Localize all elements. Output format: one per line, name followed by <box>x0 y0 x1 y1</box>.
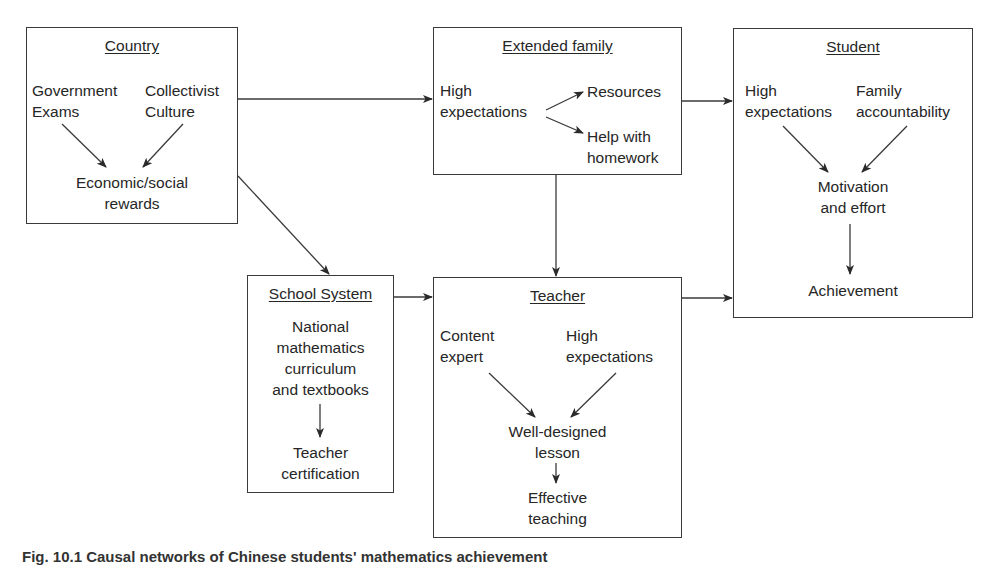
well-designed-lesson-label: Well-designed lesson <box>433 421 682 463</box>
government-exams-label: Government Exams <box>32 80 117 122</box>
content-expert-label: Content expert <box>440 325 494 367</box>
help-with-homework-label: Help with homework <box>587 126 659 168</box>
economic-social-rewards-label: Economic/social rewards <box>26 172 238 214</box>
student-title: Student <box>733 36 973 57</box>
teacher-certification-label: Teacher certification <box>247 442 394 484</box>
family-high-expectations-label: High expectations <box>440 80 527 122</box>
country-title: Country <box>26 35 238 56</box>
school-system-title: School System <box>247 283 394 304</box>
motivation-effort-label: Motivation and effort <box>733 176 973 218</box>
student-box <box>733 28 973 318</box>
effective-teaching-label: Effective teaching <box>433 487 682 529</box>
curriculum-label: National mathematics curriculum and text… <box>247 316 394 400</box>
student-high-expectations-label: High expectations <box>745 80 832 122</box>
teacher-title: Teacher <box>433 285 682 306</box>
teacher-high-expectations-label: High expectations <box>566 325 653 367</box>
figure-caption: Fig. 10.1 Causal networks of Chinese stu… <box>22 548 547 565</box>
extended-family-title: Extended family <box>433 35 682 56</box>
achievement-label: Achievement <box>733 280 973 301</box>
collectivist-culture-label: Collectivist Culture <box>145 80 219 122</box>
family-accountability-label: Family accountability <box>856 80 950 122</box>
resources-label: Resources <box>587 81 661 102</box>
